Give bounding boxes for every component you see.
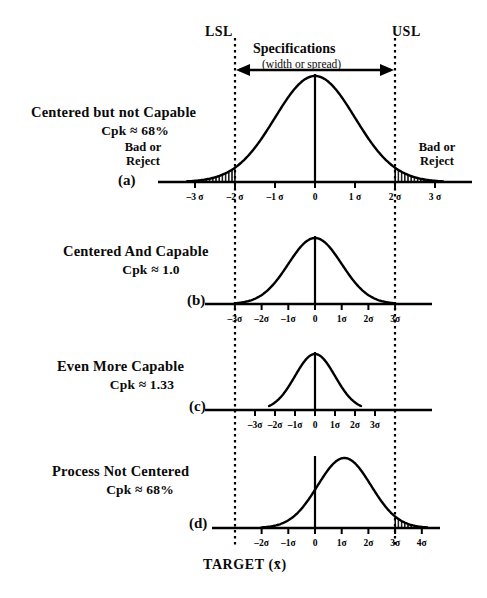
- reject-right-line1: Bad or: [419, 140, 455, 154]
- panel-d-tick-label: 3σ: [390, 538, 401, 548]
- panel-d-plot: –2σ–1σ01σ2σ3σ4σ: [212, 456, 440, 548]
- panel-c-tick-label: –1σ: [287, 420, 304, 430]
- capability-chart-svg: –3 σ–2 σ–1 σ01 σ2 σ3 σ–3σ–2σ–1σ01σ2σ3σ–3…: [0, 0, 487, 598]
- panel-c-tick-label: 0: [313, 420, 318, 430]
- panel-b-tick-label: 0: [313, 314, 318, 324]
- panel-c-tick-label: –3σ: [247, 420, 264, 430]
- panel-b-tick-label: –1σ: [280, 314, 297, 324]
- panel-b-title: Centered And Capable: [63, 243, 209, 260]
- panel-d-tick-label: 2σ: [363, 538, 374, 548]
- panel-d-tick-label: –1σ: [280, 538, 297, 548]
- capability-figure: –3 σ–2 σ–1 σ01 σ2 σ3 σ–3σ–2σ–1σ01σ2σ3σ–3…: [0, 0, 487, 598]
- panel-b-label: (b): [187, 292, 205, 309]
- panel-d-tick-label: 1σ: [337, 538, 348, 548]
- panel-c-plot: –3σ–2σ–1σ01σ2σ3σ: [205, 352, 432, 430]
- panel-b-tick-label: 1σ: [337, 314, 348, 324]
- specifications-label: Specifications: [253, 41, 335, 57]
- panel-d-bell-curve: [262, 458, 428, 527]
- panel-a-title: Centered but not Capable: [31, 104, 196, 121]
- reject-right-line2: Reject: [420, 154, 454, 168]
- axis-title: TARGET (x̄): [203, 557, 287, 573]
- panel-a-tick-label: –1 σ: [265, 192, 284, 202]
- panel-a-tick-label: 3 σ: [429, 192, 442, 202]
- panel-c-title: Even More Capable: [57, 358, 184, 375]
- panel-d-tick-label: 0: [313, 538, 318, 548]
- panel-a-tick-label: –3 σ: [185, 192, 204, 202]
- panel-c-tick-label: 1σ: [330, 420, 341, 430]
- panel-a-cpk: Cpk ≈ 68%: [31, 123, 239, 139]
- reject-label-right: Bad or Reject: [406, 140, 468, 168]
- reject-left-line1: Bad or: [125, 140, 161, 154]
- panel-d-label: (d): [189, 515, 207, 532]
- panel-d-tick-label: 4σ: [417, 538, 428, 548]
- panel-c-tick-label: 2σ: [350, 420, 361, 430]
- panel-d-tick-label: –2σ: [253, 538, 270, 548]
- reject-left-line2: Reject: [126, 154, 160, 168]
- panel-a-tick-label: 0: [313, 192, 318, 202]
- reject-label-left: Bad or Reject: [112, 140, 174, 168]
- specifications-sublabel: (width or spread): [262, 58, 341, 70]
- panel-a-tick-label: 1 σ: [349, 192, 362, 202]
- panel-b-tick-label: 3σ: [390, 314, 401, 324]
- lsl-label: LSL: [205, 24, 233, 40]
- panel-c-label: (c): [189, 398, 206, 415]
- panel-b-tick-label: –3σ: [227, 314, 244, 324]
- panel-a-tick-label: 2 σ: [389, 192, 402, 202]
- panel-d-title: Process Not Centered: [52, 463, 189, 480]
- panel-b-tick-label: 2σ: [363, 314, 374, 324]
- panel-c-cpk: Cpk ≈ 1.33: [57, 377, 227, 393]
- usl-label: USL: [392, 24, 421, 40]
- panel-a-tick-label: –2 σ: [225, 192, 244, 202]
- panel-a-label: (a): [118, 172, 136, 189]
- panel-b-tick-label: –2σ: [253, 314, 270, 324]
- panel-c-tick-label: –2σ: [267, 420, 284, 430]
- panel-b-cpk: Cpk ≈ 1.0: [63, 262, 239, 278]
- panel-d-cpk: Cpk ≈ 68%: [52, 482, 228, 498]
- panel-c-tick-label: 3σ: [370, 420, 381, 430]
- panel-b-plot: –3σ–2σ–1σ01σ2σ3σ: [205, 236, 432, 324]
